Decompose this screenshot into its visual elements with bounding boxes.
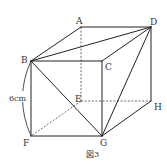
vertex-label-E: E — [75, 94, 82, 104]
vertex-label-A: A — [75, 16, 83, 26]
cube-diagram: A D B C E H F G 6cm 図3 — [0, 0, 167, 167]
vertex-label-H: H — [154, 102, 162, 112]
diagonal-BG — [31, 61, 102, 136]
diagonal-DG — [102, 27, 151, 136]
hidden-edges — [31, 27, 151, 136]
vertex-label-C: C — [105, 62, 112, 72]
vertex-label-G: G — [100, 138, 107, 148]
vertex-label-F: F — [23, 138, 29, 148]
figure-caption: 図3 — [86, 150, 99, 159]
vertex-label-D: D — [150, 17, 157, 27]
vertex-label-B: B — [21, 55, 28, 65]
edge-AB — [31, 27, 81, 61]
visible-edges — [31, 27, 151, 136]
dimension-label: 6cm — [9, 94, 27, 103]
diagonal-BD — [31, 27, 151, 61]
